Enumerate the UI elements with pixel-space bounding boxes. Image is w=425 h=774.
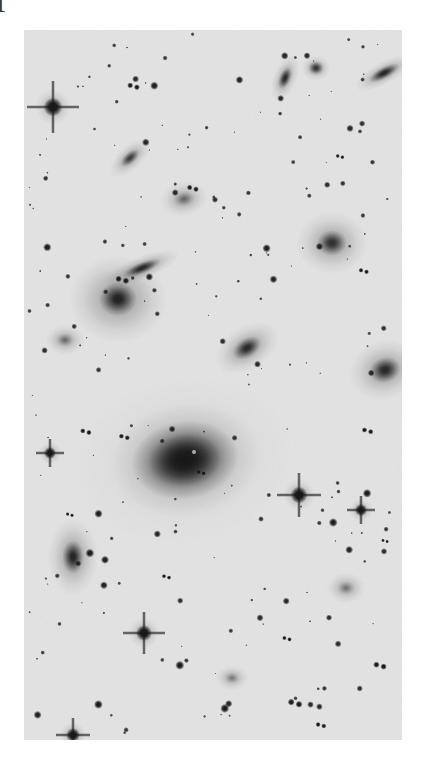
figure-page: f [0, 0, 425, 774]
figure-label: f [0, 0, 10, 14]
astronomical-image-plate [24, 30, 402, 740]
plate-canvas [24, 30, 402, 740]
